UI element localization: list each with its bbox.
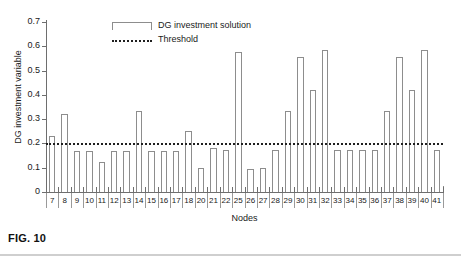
x-axis-tick <box>170 187 171 193</box>
x-axis-tick-label: 37 <box>381 196 393 205</box>
x-axis-tick-label: 27 <box>257 196 269 205</box>
x-axis-tick <box>232 187 233 193</box>
x-axis-tick <box>145 187 146 193</box>
x-axis-tick <box>319 187 320 193</box>
x-axis-tick <box>443 187 444 193</box>
x-axis-tick-label: 30 <box>294 196 306 205</box>
page-divider <box>0 254 461 256</box>
plot-area <box>46 22 443 192</box>
x-axis-tick-label: 41 <box>431 196 443 205</box>
bar <box>185 131 191 192</box>
figure-caption: FIG. 10 <box>8 232 46 244</box>
bar <box>136 111 142 192</box>
bar <box>409 90 415 192</box>
x-axis-title: Nodes <box>46 213 443 223</box>
bar <box>372 150 378 192</box>
x-axis-tick-label: 38 <box>393 196 405 205</box>
x-axis-tick-label: 16 <box>158 196 170 205</box>
x-axis-tick-label: 17 <box>170 196 182 205</box>
bar <box>434 150 440 192</box>
x-axis-tick <box>220 187 221 193</box>
bar <box>334 150 340 192</box>
x-axis-tick-label: 34 <box>344 196 356 205</box>
y-axis-tick-label: 0.3 <box>27 114 40 123</box>
x-axis-tick-label: 10 <box>83 196 95 205</box>
x-axis-tick-label: 28 <box>269 196 281 205</box>
x-axis-tick-label: 7 <box>46 196 58 205</box>
bar <box>223 150 229 192</box>
x-axis-tick-label: 20 <box>195 196 207 205</box>
x-axis-tick <box>356 187 357 193</box>
threshold-line <box>46 143 443 145</box>
bar <box>99 162 105 192</box>
x-axis-tick-label: 12 <box>108 196 120 205</box>
x-axis-tick <box>431 187 432 193</box>
x-axis-tick <box>393 187 394 193</box>
x-axis-tick <box>257 187 258 193</box>
bar <box>235 52 241 192</box>
y-axis-tick-label: 0.7 <box>27 17 40 26</box>
x-axis-tick <box>245 187 246 193</box>
x-axis-tick-label: 35 <box>356 196 368 205</box>
x-axis-tick-label: 9 <box>71 196 83 205</box>
x-axis-tick <box>71 187 72 193</box>
bar <box>123 151 129 192</box>
bar <box>347 150 353 192</box>
x-axis-tick-label: 14 <box>133 196 145 205</box>
x-axis-tick-label: 8 <box>58 196 70 205</box>
x-axis-tick-label: 29 <box>282 196 294 205</box>
x-axis-tick <box>96 187 97 193</box>
x-axis-tick <box>46 187 47 193</box>
bar <box>161 151 167 192</box>
x-axis-tick <box>418 187 419 193</box>
x-axis-tick <box>108 187 109 193</box>
x-axis-tick <box>182 187 183 193</box>
bar <box>247 169 253 192</box>
x-axis-tick-label: 33 <box>331 196 343 205</box>
figure-container: DG investment solution Threshold 00.10.2… <box>0 0 461 258</box>
bar <box>396 57 402 192</box>
x-axis-tick <box>269 187 270 193</box>
x-axis-tick-label: 13 <box>120 196 132 205</box>
x-axis-tick <box>207 187 208 193</box>
x-axis-tick <box>195 187 196 193</box>
bar <box>86 151 92 192</box>
bar <box>74 151 80 192</box>
x-axis-tick-label: 26 <box>245 196 257 205</box>
y-axis-title: DG investment variable <box>13 27 23 167</box>
x-axis-tick <box>369 187 370 193</box>
x-axis-tick <box>282 187 283 193</box>
x-axis-tick <box>381 187 382 193</box>
bar <box>421 50 427 192</box>
bar <box>111 151 117 192</box>
x-axis-tick <box>158 187 159 193</box>
bar <box>210 148 216 192</box>
x-axis-tick <box>294 187 295 193</box>
x-axis-tick-label: 25 <box>232 196 244 205</box>
x-axis-tick <box>83 187 84 193</box>
bar <box>359 150 365 192</box>
bar <box>297 57 303 192</box>
y-axis-tick-label: 0.1 <box>27 163 40 172</box>
y-axis-tick-label: 0 <box>35 187 40 196</box>
x-axis-tick-label: 11 <box>96 196 108 205</box>
bar <box>285 111 291 192</box>
x-axis-tick <box>331 187 332 193</box>
y-axis-tick-label: 0.5 <box>27 66 40 75</box>
x-axis-tick-label: 36 <box>369 196 381 205</box>
bar <box>198 168 204 192</box>
bar <box>322 50 328 192</box>
x-axis-tick-label: 32 <box>319 196 331 205</box>
x-axis-tick <box>58 187 59 193</box>
x-axis-separator <box>443 193 444 208</box>
x-axis-tick <box>133 187 134 193</box>
x-axis-tick-label: 21 <box>207 196 219 205</box>
bar <box>272 150 278 192</box>
x-axis-tick <box>344 187 345 193</box>
x-axis-tick-label: 22 <box>220 196 232 205</box>
x-axis-tick-label: 31 <box>307 196 319 205</box>
x-axis-tick-label: 39 <box>406 196 418 205</box>
x-axis-tick <box>120 187 121 193</box>
bar <box>260 168 266 192</box>
bar <box>310 90 316 192</box>
